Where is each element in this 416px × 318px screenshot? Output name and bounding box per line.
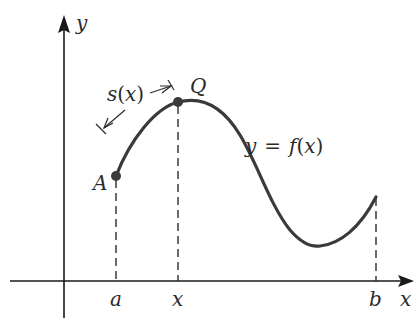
point-a xyxy=(111,171,121,181)
arc-arrow-right-icon xyxy=(150,86,171,93)
tick-label-a: a xyxy=(110,287,122,311)
curve-eq: = xyxy=(264,134,281,158)
point-q xyxy=(173,97,183,107)
arc-length-label: s(x) xyxy=(107,82,144,106)
arc-length-diagram: y x a x b A Q s(x) y=f(x) xyxy=(0,0,416,318)
curve-lhs: y xyxy=(244,134,257,158)
tick-label-x: x xyxy=(172,287,183,311)
dashed-guides xyxy=(116,106,376,281)
curve-close-paren: ) xyxy=(316,134,324,158)
point-a-label: A xyxy=(91,171,107,195)
x-axis-label: x xyxy=(400,287,411,311)
tick-label-b: b xyxy=(369,287,382,311)
arc-s: s xyxy=(107,82,117,106)
point-q-label: Q xyxy=(190,74,206,98)
arc-close-paren: ) xyxy=(136,82,144,106)
arc-open-paren: ( xyxy=(117,82,125,106)
x-axis xyxy=(10,275,414,287)
arc-var: x xyxy=(125,82,136,106)
curve-label: y=f(x) xyxy=(244,134,323,158)
y-axis-label: y xyxy=(75,11,88,35)
curve-f xyxy=(116,100,376,246)
curve-var: x xyxy=(304,134,315,158)
curve-open-paren: ( xyxy=(296,134,304,158)
y-axis xyxy=(58,15,70,318)
